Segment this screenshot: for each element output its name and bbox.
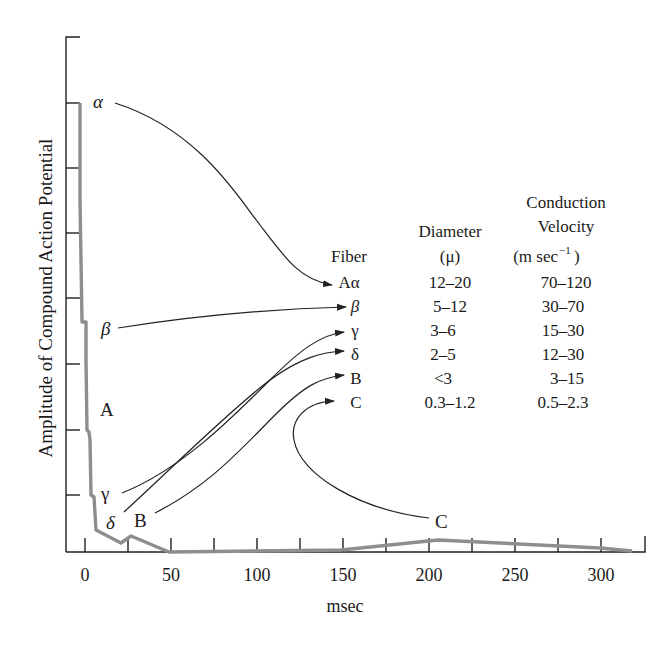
- x-tick-label: 100: [244, 565, 271, 585]
- label-beta: β: [100, 318, 111, 339]
- velocity-cell: 12–30: [542, 345, 585, 364]
- fiber-cell: Aα: [338, 273, 359, 292]
- table-row: C 0.3–1.2 0.5–2.3: [350, 393, 588, 412]
- header-diameter-line1: Diameter: [418, 222, 482, 241]
- label-A: A: [100, 399, 114, 420]
- label-gamma: γ: [100, 483, 109, 504]
- label-delta: δ: [106, 512, 116, 533]
- header-velocity-line1: Conduction: [526, 193, 606, 212]
- x-axis-label: msec: [327, 596, 364, 616]
- header-velocity-close: ): [574, 247, 580, 266]
- fiber-cell: δ: [351, 345, 359, 364]
- diameter-cell: 5–12: [433, 297, 467, 316]
- table-row: γ 3–6 15–30: [350, 321, 584, 340]
- arrow-delta: [124, 351, 344, 512]
- arrow-C: [293, 401, 429, 518]
- header-diameter-line2: (μ): [440, 247, 460, 266]
- label-alpha: α: [93, 91, 104, 112]
- y-axis: Amplitude of Compound Action Potential: [35, 37, 80, 552]
- fiber-cell: C: [350, 393, 361, 412]
- x-tick-label: 300: [588, 565, 615, 585]
- velocity-cell: 0.5–2.3: [538, 393, 589, 412]
- diameter-cell: 0.3–1.2: [425, 393, 476, 412]
- label-arrows: [115, 103, 429, 518]
- table-row: δ 2–5 12–30: [351, 345, 584, 364]
- table-row: Aα 12–20 70–120: [338, 273, 591, 292]
- diameter-cell: <3: [434, 369, 452, 388]
- table-row: B <3 3–15: [350, 369, 584, 388]
- x-tick-label: 250: [502, 565, 529, 585]
- arrow-B: [155, 375, 344, 513]
- curve-highlight: [83, 330, 84, 430]
- velocity-cell: 70–120: [541, 273, 592, 292]
- diameter-cell: 2–5: [430, 345, 456, 364]
- x-axis-tick-labels: 0 50 100 150 200 250 300: [81, 565, 615, 585]
- header-fiber: Fiber: [331, 247, 367, 266]
- fiber-cell: γ: [350, 321, 359, 340]
- velocity-cell: 30–70: [542, 297, 585, 316]
- x-tick-label: 150: [330, 565, 357, 585]
- x-tick-label: 50: [162, 565, 180, 585]
- diameter-cell: 3–6: [430, 321, 456, 340]
- label-C: C: [435, 511, 448, 532]
- fiber-cell: B: [350, 369, 361, 388]
- table-row: β 5–12 30–70: [350, 297, 584, 316]
- arrow-beta: [118, 307, 346, 328]
- x-tick-label: 0: [81, 565, 90, 585]
- header-velocity-line3: (m sec: [513, 247, 558, 266]
- y-axis-label: Amplitude of Compound Action Potential: [35, 139, 56, 458]
- velocity-cell: 15–30: [542, 321, 585, 340]
- diameter-cell: 12–20: [429, 273, 472, 292]
- header-velocity-superscript: −1: [559, 244, 571, 256]
- x-tick-label: 200: [416, 565, 443, 585]
- table-header: Conduction Diameter Velocity Fiber (μ) (…: [331, 193, 606, 266]
- y-axis-ticks: [66, 103, 80, 495]
- velocity-cell: 3–15: [550, 369, 584, 388]
- curve-labels: α β A γ δ B C: [93, 91, 448, 533]
- label-B: B: [134, 510, 147, 531]
- header-velocity-line2: Velocity: [538, 217, 595, 236]
- compound-action-potential-chart: Amplitude of Compound Action Potential 0…: [0, 0, 672, 648]
- fiber-cell: β: [350, 297, 360, 316]
- arrow-alpha: [115, 103, 332, 285]
- fiber-table: Conduction Diameter Velocity Fiber (μ) (…: [331, 193, 606, 412]
